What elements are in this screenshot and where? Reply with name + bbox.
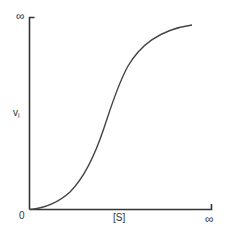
x-axis-label: [S] bbox=[113, 213, 125, 223]
sigmoid-curve bbox=[30, 25, 192, 210]
x-axis bbox=[30, 204, 212, 210]
y-axis bbox=[30, 18, 35, 210]
y-max-label: ∞ bbox=[16, 11, 24, 21]
y-axis-label-sub: i bbox=[18, 112, 20, 119]
chart-canvas bbox=[0, 0, 226, 234]
origin-label: 0 bbox=[19, 211, 25, 221]
x-max-label: ∞ bbox=[205, 214, 213, 224]
y-axis-label: vi bbox=[13, 108, 20, 121]
